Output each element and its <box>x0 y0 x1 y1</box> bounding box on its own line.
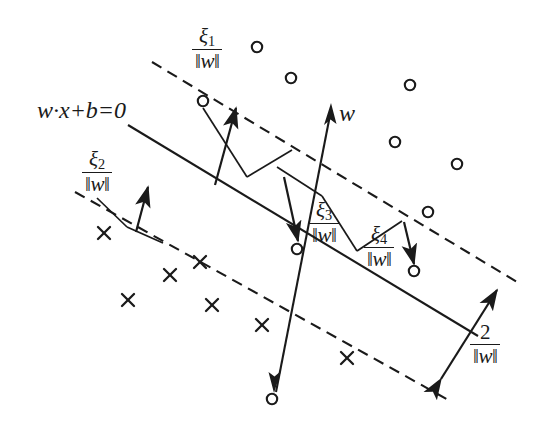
slack-3-numerator: ξ3 <box>309 200 339 224</box>
decision-boundary <box>128 125 478 336</box>
data-point-cross-slack2 <box>194 256 206 268</box>
slack-2-numerator: ξ2 <box>82 149 112 173</box>
slack-3-subscript: 3 <box>325 207 332 223</box>
weight-vector-axis-line <box>276 110 331 392</box>
data-point-circle-slack4 <box>409 266 419 276</box>
slack-3-rail-top <box>277 167 322 196</box>
slack-4-arrow <box>404 222 414 264</box>
slack-2-subscript: 2 <box>98 156 105 172</box>
data-point-cross <box>206 299 218 311</box>
slack-1-subscript: 1 <box>208 33 215 49</box>
negative-class-markers <box>98 227 353 364</box>
slack-2-label: ξ2 ‖w‖ <box>82 149 112 195</box>
data-point-circle <box>452 159 462 169</box>
data-point-circle <box>390 137 400 147</box>
slack-3-fraction: ξ3 ‖w‖ <box>309 200 339 246</box>
data-point-cross <box>256 319 268 331</box>
hyperplane-equation-label: w·x+b=0 <box>37 98 126 122</box>
weight-vector-label: w <box>339 101 355 125</box>
margin-width-fraction: 2 ‖w‖ <box>470 322 500 367</box>
data-point-circle <box>252 42 262 52</box>
weight-vector-arrowhead <box>324 103 337 125</box>
data-point-cross <box>122 294 134 306</box>
data-point-circle <box>286 73 296 83</box>
slack-4-subscript: 4 <box>380 231 387 247</box>
slack-4-numerator: ξ4 <box>364 224 394 248</box>
slack-1-denominator: ‖w‖ <box>192 50 222 72</box>
slack-3-denominator: ‖w‖ <box>309 224 339 246</box>
slack-3-arrow <box>284 177 298 241</box>
weight-vector-axis-arrowhead-down <box>269 371 282 393</box>
margin-width-label: 2 ‖w‖ <box>470 322 500 367</box>
data-point-circle-slack1 <box>198 96 208 106</box>
margin-width-numerator: 2 <box>470 322 500 345</box>
slack-3-label: ξ3 ‖w‖ <box>309 200 339 246</box>
slack-1-rail-left <box>203 108 247 177</box>
slack-2-fraction: ξ2 ‖w‖ <box>82 149 112 195</box>
slack-1-fraction: ξ1 ‖w‖ <box>192 26 222 72</box>
slack-1-arrow <box>215 108 236 185</box>
slack-4-denominator: ‖w‖ <box>364 248 394 270</box>
slack-2-arrow <box>136 187 148 232</box>
data-point-circle-slack3 <box>292 244 302 254</box>
slack-4-fraction: ξ4 ‖w‖ <box>364 224 394 270</box>
data-point-cross <box>98 227 110 239</box>
slack-2-rail-bottom <box>127 227 163 243</box>
slack-1-numerator: ξ1 <box>192 26 222 50</box>
svm-margin-figure: w·x+b=0 w ξ1 ‖w‖ ξ2 ‖w‖ ξ3 ‖w‖ ξ4 ‖w‖ 2 … <box>0 0 550 431</box>
data-point-circle <box>405 80 415 90</box>
slack-2-rail-left <box>97 198 127 227</box>
data-point-circle <box>423 207 433 217</box>
data-point-cross <box>164 269 176 281</box>
margin-width-denominator: ‖w‖ <box>470 345 500 367</box>
slack-2-denominator: ‖w‖ <box>82 173 112 195</box>
svm-diagram-canvas <box>0 0 550 431</box>
data-point-circle-outlier <box>267 394 277 404</box>
slack-4-label: ξ4 ‖w‖ <box>364 224 394 270</box>
data-point-cross <box>341 352 353 364</box>
slack-1-label: ξ1 ‖w‖ <box>192 26 222 72</box>
